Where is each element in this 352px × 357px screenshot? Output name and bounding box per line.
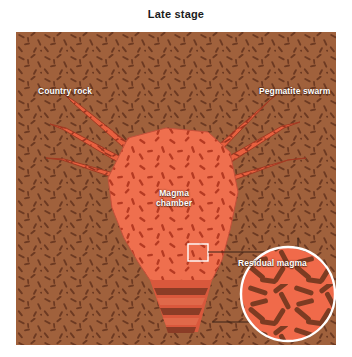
page-title: Late stage <box>0 8 352 20</box>
label-magma-chamber-line1: Magma <box>156 188 192 198</box>
diagram-panel: Country rock Pegmatite swarm Magma chamb… <box>16 32 336 345</box>
label-country-rock: Country rock <box>38 86 92 96</box>
label-magma-chamber: Magma chamber <box>156 188 192 208</box>
label-pegmatite-swarm: Pegmatite swarm <box>259 86 330 96</box>
diagram-root: Late stage <box>0 0 352 357</box>
label-magma-chamber-line2: chamber <box>156 198 192 208</box>
label-residual-magma: Residual magma <box>238 258 307 268</box>
